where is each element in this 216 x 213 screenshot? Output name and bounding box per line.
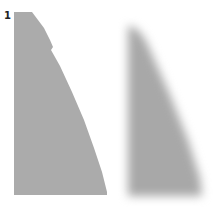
blurred-shape xyxy=(0,0,216,213)
